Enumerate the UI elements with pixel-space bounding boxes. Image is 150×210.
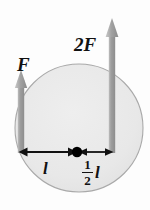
center-of-mass-dot — [72, 147, 82, 157]
fraction-numerator: 1 — [83, 158, 92, 171]
force-label-2F: 2F — [74, 35, 96, 54]
dimension-label-l: l — [43, 160, 48, 177]
fraction-one-half: 1 2 — [82, 158, 93, 187]
fraction-denominator: 2 — [83, 174, 92, 187]
force-arrow-2F-head — [106, 18, 119, 37]
force-arrow-F-shaft — [18, 80, 24, 153]
force-arrow-2F-shaft — [109, 29, 115, 153]
dimension-label-half-l: 1 2 l — [82, 158, 100, 187]
physics-figure: F 2F l 1 2 l — [0, 0, 150, 210]
fraction-unit-l: l — [95, 164, 100, 181]
shaded-disk — [15, 64, 143, 192]
force-label-F: F — [17, 55, 30, 74]
figure-canvas — [0, 0, 150, 210]
